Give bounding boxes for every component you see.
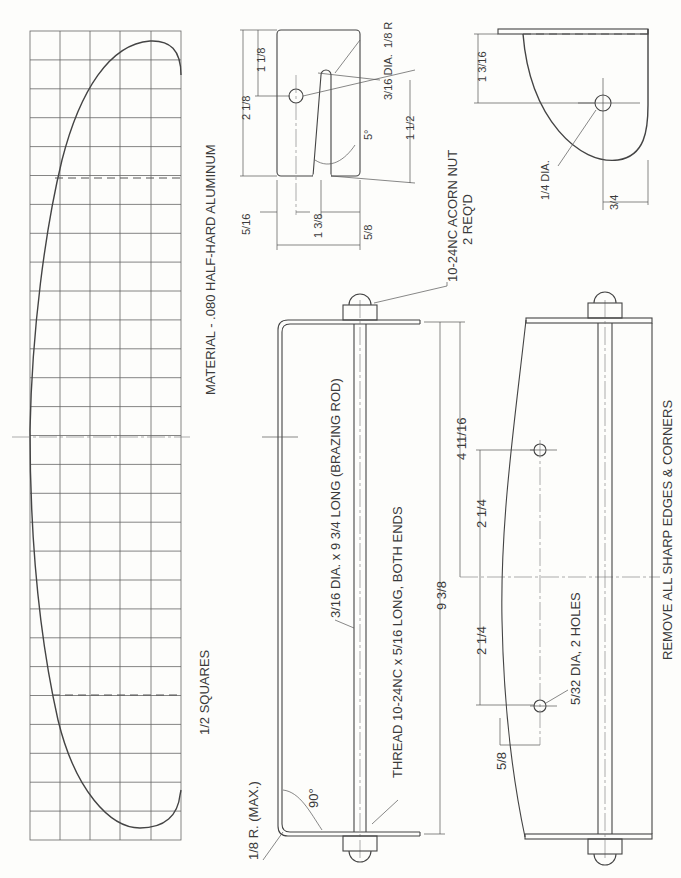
slot-width-dim: 1 3/8 [312, 214, 324, 238]
grid-scale-note: 1/2 SQUARES [197, 649, 212, 735]
bracket-top-view [502, 292, 652, 865]
pattern-curve [12, 41, 190, 828]
thread-note: THREAD 10-24NC x 5/16 LONG, BOTH ENDS [390, 506, 405, 778]
small-holes-note: 5/32 DIA, 2 HOLES [568, 592, 583, 705]
half-length-dim: 4 11/16 [454, 418, 469, 460]
remove-edges-note: REMOVE ALL SHARP EDGES & CORNERS [660, 400, 675, 660]
overall-length-dim: 9 3/8 [434, 581, 449, 610]
acorn-nut-qty: 2 REQ'D [460, 194, 475, 245]
end-plate-hole-dia-dim: 1/4 DIA. [539, 160, 551, 200]
slot-hole-dia-dim: 3/16 DIA. [382, 54, 394, 100]
hole-spacing-upper-dim: 2 1/4 [474, 499, 489, 528]
technical-drawing-sheet: MATERIAL - .080 HALF-HARD ALUMINUM 1/2 S… [0, 0, 681, 878]
end-plate-view [474, 29, 648, 210]
slot-overall-height-dim: 2 1/8 [240, 96, 252, 120]
slot-hole-offset-dim: 1 1/8 [255, 48, 267, 72]
rod-note: 3/16 DIA. x 9 3/4 LONG (BRAZING ROD) [328, 378, 343, 618]
slot-radius-dim: 1/8 R [382, 22, 394, 48]
material-note: MATERIAL - .080 HALF-HARD ALUMINUM [203, 144, 218, 395]
pattern-grid [30, 31, 181, 840]
slot-angle-dim: 5° [362, 129, 374, 140]
bend-angle-note: 90° [306, 788, 321, 808]
end-plate-bottom-dim: 3/4 [608, 195, 620, 210]
slot-length-dim: 1 1/2 [404, 116, 416, 140]
assembly-dimensions [424, 322, 660, 834]
bend-radius-note: 1/8 R. (MAX.) [246, 781, 261, 860]
acorn-nut-note: 10-24NC ACORN NUT [445, 150, 460, 282]
hole-spacing-lower-dim: 2 1/4 [474, 626, 489, 655]
edge-offset-dim: 5/8 [494, 752, 509, 770]
slot-left-offset-dim: 5/16 [240, 214, 252, 235]
end-plate-hole-offset-dim: 1 3/16 [476, 51, 488, 82]
slot-right-offset-dim: 5/8 [362, 225, 374, 240]
